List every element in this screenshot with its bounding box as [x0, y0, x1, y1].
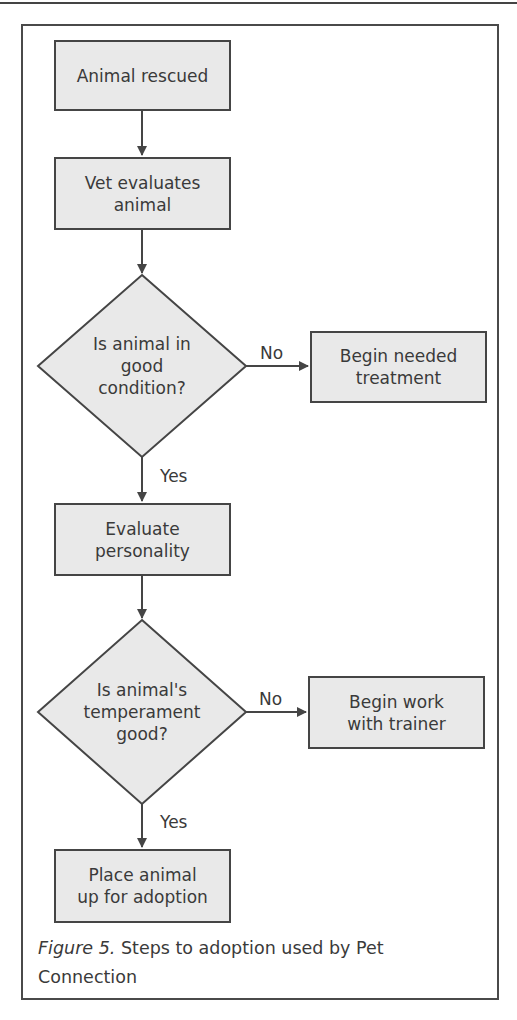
step-begin-treatment: Begin needed treatment [310, 331, 487, 403]
step-place-adoption: Place animal up for adoption [54, 849, 231, 923]
decision-condition-text: Is animal in good condition? [62, 330, 222, 402]
step-evaluate-personality: Evaluate personality [54, 503, 231, 576]
edge-label-condition-no: No [260, 343, 283, 363]
figure-caption: Figure 5. Steps to adoption used by Pet … [38, 934, 478, 992]
step-animal-rescued: Animal rescued [54, 40, 231, 111]
edge-label-condition-yes: Yes [160, 466, 187, 486]
edge-label-temperament-yes: Yes [160, 812, 187, 832]
step-begin-trainer: Begin work with trainer [308, 676, 485, 749]
edge-label-temperament-no: No [259, 689, 282, 709]
step-vet-evaluates: Vet evaluates animal [54, 157, 231, 230]
decision-temperament-text: Is animal's temperament good? [62, 676, 222, 748]
figure-label: Figure 5. [38, 938, 115, 958]
